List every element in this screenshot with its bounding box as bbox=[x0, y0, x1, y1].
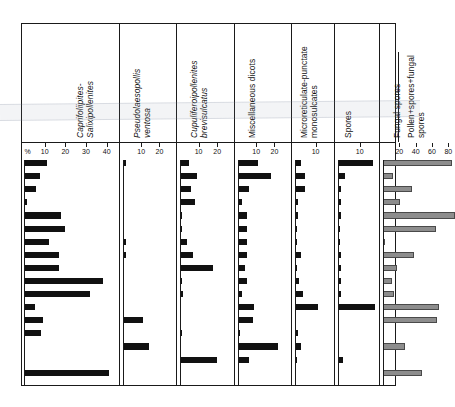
data-bar bbox=[24, 212, 61, 218]
panel-header-miscellaneous-dicots: Miscellaneous dicots bbox=[248, 59, 258, 138]
panel-header-line-2: brevisulcatus bbox=[200, 60, 210, 138]
fungal-spores-divider bbox=[398, 52, 399, 142]
data-bar bbox=[383, 317, 437, 323]
data-bar bbox=[338, 160, 373, 166]
data-bar bbox=[180, 357, 217, 363]
data-bar bbox=[180, 199, 195, 205]
data-bar bbox=[24, 265, 59, 271]
panel-zero-line bbox=[295, 160, 296, 385]
data-bar bbox=[338, 304, 375, 310]
data-bar bbox=[180, 265, 213, 271]
data-bar bbox=[238, 186, 249, 192]
axis-tick-label: 10 bbox=[312, 148, 320, 155]
data-bar bbox=[383, 160, 452, 166]
data-bar bbox=[238, 265, 245, 271]
data-bar bbox=[383, 265, 397, 271]
data-bar bbox=[24, 291, 90, 297]
data-bar bbox=[24, 239, 49, 245]
axis-percent-symbol: % bbox=[24, 148, 30, 155]
data-bar bbox=[180, 239, 187, 245]
data-bar bbox=[180, 252, 193, 258]
axis-tick-label: 80 bbox=[444, 148, 452, 155]
data-bar bbox=[295, 304, 318, 310]
axis-tick-mark bbox=[316, 143, 317, 147]
axis-tick-label: 20 bbox=[213, 148, 221, 155]
data-bar bbox=[24, 173, 40, 179]
data-bar bbox=[24, 278, 103, 284]
data-bar bbox=[238, 317, 253, 323]
data-bar bbox=[383, 252, 414, 258]
panel-header-line-1: Miscellaneous dicots bbox=[247, 59, 257, 138]
chart-frame: Caprifoliipites- Salixipollenites Pseudo… bbox=[21, 23, 396, 386]
panel-header-microreticulate-punctate-monosulcates: Microreticulate-punctate monosulcates bbox=[300, 46, 319, 138]
axis-tick-mark bbox=[86, 143, 87, 147]
panel-header-line-1: Microreticulate-punctate bbox=[299, 46, 309, 138]
data-bar bbox=[383, 226, 436, 232]
data-bar bbox=[24, 304, 35, 310]
axis-tick-mark bbox=[159, 143, 160, 147]
axis-tick-label: 10 bbox=[252, 148, 260, 155]
axis-tick-mark bbox=[448, 143, 449, 147]
data-bar bbox=[238, 239, 247, 245]
axis-tick-label: 20 bbox=[156, 148, 164, 155]
data-bar bbox=[24, 160, 47, 166]
data-bar bbox=[383, 186, 412, 192]
axis-tick-label: 30 bbox=[82, 148, 90, 155]
data-bar bbox=[238, 278, 247, 284]
data-bar bbox=[238, 343, 278, 349]
axis-tick-label: 10 bbox=[356, 148, 364, 155]
panel-header-cupuliferoipollenites-brevisulcatus: Cupuliferoipollenites brevisulcatus bbox=[190, 60, 209, 138]
data-bar bbox=[383, 212, 455, 218]
data-bar bbox=[383, 199, 400, 205]
data-bar bbox=[238, 173, 271, 179]
data-bar bbox=[295, 291, 303, 297]
data-bar bbox=[24, 226, 65, 232]
data-bar bbox=[180, 186, 191, 192]
axis-tick-label: 60 bbox=[428, 148, 436, 155]
axis-tick-label: 40 bbox=[103, 148, 111, 155]
axis-tick-mark bbox=[141, 143, 142, 147]
panel-zero-line bbox=[338, 160, 339, 385]
data-bar bbox=[295, 186, 305, 192]
data-bar bbox=[383, 304, 439, 310]
axis-tick-mark bbox=[65, 143, 66, 147]
data-bar bbox=[238, 357, 249, 363]
data-bar bbox=[383, 370, 422, 376]
axis-tick-label: 20 bbox=[61, 148, 69, 155]
data-bar bbox=[383, 278, 392, 284]
panel-zero-line bbox=[238, 160, 239, 385]
axis-tick-mark bbox=[274, 143, 275, 147]
data-bar bbox=[383, 173, 393, 179]
panel-zero-line bbox=[180, 160, 181, 385]
axis-tick-label: 10 bbox=[195, 148, 203, 155]
data-bar bbox=[238, 212, 247, 218]
axis-tick-label: 20 bbox=[271, 148, 279, 155]
axis-tick-mark bbox=[107, 143, 108, 147]
panel-header-line-1: Cupuliferoipollenites bbox=[189, 60, 199, 138]
data-bar bbox=[180, 173, 197, 179]
panel-zero-line bbox=[123, 160, 124, 385]
data-bar bbox=[238, 304, 254, 310]
axis-tick-mark bbox=[360, 143, 361, 147]
axis-tick-label: 20 bbox=[395, 148, 403, 155]
data-bar bbox=[24, 252, 59, 258]
data-bar bbox=[238, 160, 258, 166]
data-bar bbox=[295, 173, 305, 179]
data-bar bbox=[238, 252, 247, 258]
data-bar bbox=[24, 317, 43, 323]
axis-tick-label: 10 bbox=[41, 148, 49, 155]
data-bar bbox=[238, 226, 247, 232]
data-bar bbox=[24, 370, 109, 376]
axis-tick-mark bbox=[432, 143, 433, 147]
axis-tick-row: %10203040102010201020101020406080 bbox=[22, 143, 395, 159]
axis-tick-label: 10 bbox=[137, 148, 145, 155]
axis-tick-mark bbox=[416, 143, 417, 147]
data-bar bbox=[24, 186, 36, 192]
panel-zero-line bbox=[383, 160, 384, 385]
axis-tick-mark bbox=[199, 143, 200, 147]
data-bar bbox=[383, 343, 405, 349]
data-bar bbox=[383, 291, 394, 297]
data-bar bbox=[123, 343, 149, 349]
axis-tick-mark bbox=[399, 143, 400, 147]
